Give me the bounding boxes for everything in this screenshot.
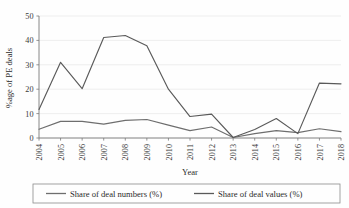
y-axis-tick-labels: 01020304050 [25,12,33,143]
series-line-deal-numbers [39,119,341,137]
x-tick-label-2015: 2015 [272,144,281,160]
y-tick-label-40: 40 [25,36,33,45]
y-axis-title: %age of PE deals [4,47,14,108]
x-tick-label-2004: 2004 [35,144,44,160]
y-tick-label-30: 30 [25,61,33,70]
x-tick-label-2007: 2007 [100,144,109,160]
x-tick-label-2016: 2016 [294,144,303,160]
legend-label-deal-values: Share of deal values (%) [218,189,303,199]
x-axis-tick-labels: 2004200520062007200820092010201120122013… [35,144,346,160]
x-tick-label-2012: 2012 [208,144,217,160]
series-lines-group [39,36,341,138]
x-axis-title: Year [182,167,198,177]
x-tick-label-2009: 2009 [143,144,152,160]
x-tick-label-2017: 2017 [316,144,325,160]
x-tick-label-2006: 2006 [78,144,87,160]
x-tick-label-2010: 2010 [165,144,174,160]
plot-area: 01020304050 2004200520062007200820092010… [0,0,349,208]
chart-container: 01020304050 2004200520062007200820092010… [0,0,349,208]
x-tick-label-2008: 2008 [121,144,130,160]
x-tick-label-2005: 2005 [57,144,66,160]
y-tick-label-10: 10 [25,110,33,119]
legend: Share of deal numbers (%) Share of deal … [33,184,340,203]
y-tick-label-0: 0 [29,134,33,143]
gridlines-group [39,16,341,138]
x-tick-label-2011: 2011 [186,144,195,160]
x-tick-label-2014: 2014 [251,144,260,160]
x-tick-label-2013: 2013 [229,144,238,160]
y-tick-label-20: 20 [25,85,33,94]
y-tick-label-50: 50 [25,12,33,21]
chart-svg: 01020304050 2004200520062007200820092010… [0,0,349,208]
legend-label-deal-numbers: Share of deal numbers (%) [70,189,162,199]
x-tick-label-2018: 2018 [337,144,346,160]
